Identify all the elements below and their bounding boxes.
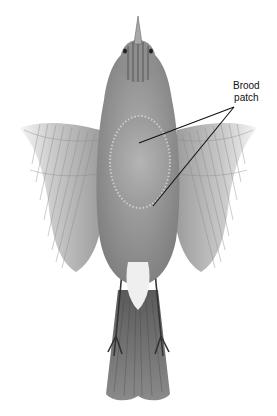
head: [120, 16, 156, 82]
right-eye: [149, 49, 153, 54]
brood-patch-label: Brood patch: [233, 80, 260, 104]
label-line-1: Brood: [233, 80, 260, 92]
right-wing: [173, 123, 257, 272]
left-eye: [123, 49, 127, 54]
bird-illustration: Brood patch: [0, 0, 277, 416]
left-wing: [20, 123, 104, 272]
label-line-2: patch: [233, 92, 260, 104]
brood-patch: [110, 116, 170, 208]
beak: [134, 16, 142, 44]
